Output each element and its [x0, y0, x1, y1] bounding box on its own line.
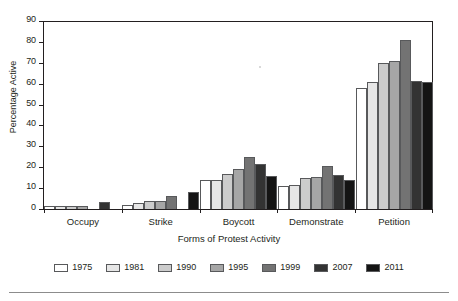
- y-axis-tick-label: 40: [26, 119, 36, 128]
- y-axis-tick-label: 60: [26, 78, 36, 87]
- chart-legend: 1975198119901995199920072011: [0, 263, 458, 272]
- legend-item[interactable]: 1990: [158, 263, 196, 272]
- bar-group: [277, 21, 355, 209]
- y-axis-tick-label: 30: [26, 140, 36, 149]
- bar[interactable]: [166, 196, 177, 209]
- x-axis-tick-mark: [200, 209, 201, 213]
- page-top-artifact: [40, 1, 420, 7]
- x-axis-tick-mark: [277, 209, 278, 213]
- x-axis-tick: [355, 209, 433, 214]
- bar[interactable]: [278, 186, 289, 209]
- bar-group: [355, 21, 433, 209]
- x-axis-tick-label: Petition: [355, 216, 433, 227]
- legend-swatch-icon: [366, 264, 380, 272]
- y-axis-title: Percentage Active: [8, 32, 18, 162]
- bar[interactable]: [99, 202, 110, 209]
- legend-item[interactable]: 1999: [262, 263, 300, 272]
- bar[interactable]: [411, 81, 422, 209]
- y-axis-tick-label: 90: [26, 15, 36, 24]
- x-axis-tick: [122, 209, 200, 214]
- legend-swatch-icon: [54, 264, 68, 272]
- legend-item[interactable]: 2007: [314, 263, 352, 272]
- legend-label: 1999: [280, 263, 300, 272]
- bar[interactable]: [300, 178, 311, 209]
- bar-group: [44, 21, 122, 209]
- bar-groups: [44, 21, 433, 209]
- bar[interactable]: [155, 201, 166, 209]
- bar[interactable]: [211, 180, 222, 209]
- bar[interactable]: [422, 82, 433, 209]
- bar[interactable]: [266, 176, 277, 209]
- bar[interactable]: [255, 164, 266, 209]
- footer-divider: [9, 292, 449, 293]
- y-axis-tick-label: 80: [26, 36, 36, 45]
- bar[interactable]: [322, 166, 333, 209]
- x-axis-tick-label: Boycott: [200, 216, 278, 227]
- x-axis-title: Forms of Protest Activity: [0, 233, 458, 244]
- x-axis-tick: [44, 209, 122, 214]
- legend-label: 2007: [332, 263, 352, 272]
- x-axis-tick-label: Demonstrate: [277, 216, 355, 227]
- x-axis-tick-mark: [355, 209, 356, 213]
- x-axis-tick-mark: [432, 209, 433, 213]
- legend-label: 1975: [72, 263, 92, 272]
- y-axis-tick-label: 10: [26, 182, 36, 191]
- bar[interactable]: [367, 82, 378, 209]
- x-axis-tick-label: Occupy: [44, 216, 122, 227]
- legend-swatch-icon: [106, 264, 120, 272]
- bar[interactable]: [400, 40, 411, 209]
- legend-item[interactable]: 2011: [366, 263, 403, 272]
- x-axis-ticks: [44, 209, 433, 214]
- bar[interactable]: [378, 63, 389, 209]
- bar-group: [122, 21, 200, 209]
- x-axis-tick: [200, 209, 278, 214]
- legend-swatch-icon: [210, 264, 224, 272]
- x-axis-labels: OccupyStrikeBoycottDemonstratePetition: [44, 216, 433, 227]
- bar[interactable]: [289, 185, 300, 209]
- legend-swatch-icon: [158, 264, 172, 272]
- bar[interactable]: [356, 88, 367, 209]
- bar[interactable]: [311, 177, 322, 209]
- legend-swatch-icon: [314, 264, 328, 272]
- bar-group: [200, 21, 278, 209]
- bar[interactable]: [144, 201, 155, 209]
- legend-item[interactable]: 1981: [106, 263, 144, 272]
- bar[interactable]: [244, 157, 255, 209]
- legend-item[interactable]: 1975: [54, 263, 92, 272]
- bar[interactable]: [233, 169, 244, 209]
- legend-label: 1981: [124, 263, 144, 272]
- x-axis-tick: [277, 209, 355, 214]
- x-axis-tick-label: Strike: [122, 216, 200, 227]
- legend-label: 2011: [384, 263, 403, 272]
- y-axis-tick-label: 20: [26, 161, 36, 170]
- bar[interactable]: [389, 61, 400, 209]
- bar[interactable]: [333, 175, 344, 209]
- y-axis-tick-label: 50: [26, 99, 36, 108]
- y-axis: 0102030405060708090: [0, 0, 43, 210]
- legend-label: 1995: [228, 263, 248, 272]
- chart-figure: 0102030405060708090 Percentage Active Oc…: [0, 0, 458, 301]
- y-axis-tick-label: 70: [26, 57, 36, 66]
- bar[interactable]: [222, 174, 233, 210]
- x-axis-tick-mark: [122, 209, 123, 213]
- bar[interactable]: [188, 192, 199, 209]
- legend-swatch-icon: [262, 264, 276, 272]
- y-axis-tick-label: 0: [31, 203, 36, 212]
- bar[interactable]: [200, 180, 211, 209]
- legend-item[interactable]: 1995: [210, 263, 248, 272]
- legend-label: 1990: [176, 263, 196, 272]
- bar[interactable]: [344, 180, 355, 209]
- x-axis-tick-mark: [44, 209, 45, 213]
